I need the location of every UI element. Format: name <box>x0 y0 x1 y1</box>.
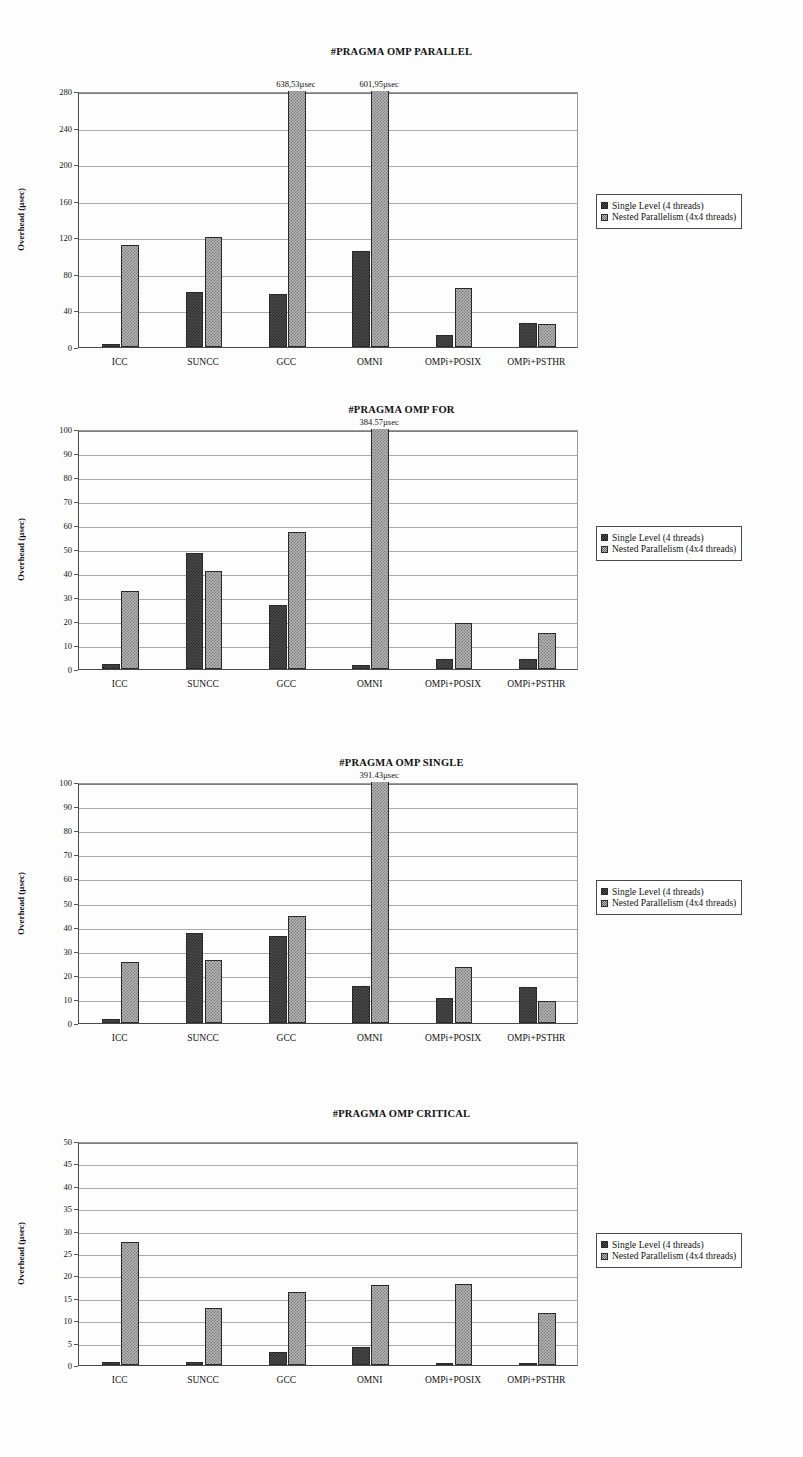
x-axis-tick-label-gcc: GCC <box>277 1375 297 1385</box>
bar-ompi-posix-nested <box>455 623 473 669</box>
x-axis-tick-label-ompi-posix: OMPi+POSIX <box>425 357 481 367</box>
gridline <box>79 479 577 480</box>
gridline <box>79 239 577 240</box>
gridline <box>79 312 577 313</box>
y-axis-tick-mark <box>74 831 78 832</box>
y-axis-tick-label: 30 <box>64 1227 73 1237</box>
y-axis-tick-mark <box>74 928 78 929</box>
x-axis-tick-label-ompi-posix: OMPi+POSIX <box>425 1033 481 1043</box>
chart-title: #PRAGMA OMP PARALLEL <box>0 46 803 57</box>
y-axis-tick-label: 50 <box>64 899 73 909</box>
plot-area <box>78 1142 578 1366</box>
bar-suncc-nested <box>205 960 223 1023</box>
chart-legend: Single Level (4 threads)Nested Paralleli… <box>596 526 742 561</box>
y-axis-tick-label: 240 <box>59 124 72 134</box>
y-axis-tick-mark <box>74 879 78 880</box>
bar-gcc-single <box>269 605 287 669</box>
dark-checker-swatch <box>601 202 608 209</box>
bar-ompi-posix-nested <box>455 288 473 347</box>
y-axis-tick-label: 35 <box>64 1204 73 1214</box>
gridline <box>79 905 577 906</box>
legend-item-single[interactable]: Single Level (4 threads) <box>601 533 736 543</box>
y-axis-tick-label: 0 <box>68 665 72 675</box>
y-axis-tick-label: 0 <box>68 1019 72 1029</box>
chart-legend: Single Level (4 threads)Nested Paralleli… <box>596 1233 742 1268</box>
light-checker-swatch <box>601 900 608 907</box>
bar-value-annotation: 384.57µsec <box>360 417 399 427</box>
light-checker-swatch <box>601 214 608 221</box>
gridline <box>79 1001 577 1002</box>
gridline <box>79 832 577 833</box>
y-axis-tick-mark <box>74 855 78 856</box>
bar-icc-nested <box>121 1242 139 1365</box>
x-axis-tick-label-ompi-psthr: OMPi+PSTHR <box>507 1033 565 1043</box>
gridline <box>79 527 577 528</box>
y-axis-tick-label: 10 <box>64 995 73 1005</box>
bar-omni-nested <box>371 429 389 669</box>
y-axis-tick-label: 160 <box>59 197 72 207</box>
y-axis-tick-label: 200 <box>59 160 72 170</box>
y-axis-tick-mark <box>74 129 78 130</box>
y-axis-tick-label: 70 <box>64 497 73 507</box>
y-axis-tick-mark <box>74 454 78 455</box>
bar-value-annotation: 601,95µsec <box>360 79 399 89</box>
x-axis-tick-label-suncc: SUNCC <box>187 679 219 689</box>
legend-item-label: Single Level (4 threads) <box>612 887 704 897</box>
bar-value-annotation: 638,53µsec <box>276 79 315 89</box>
y-axis-tick-mark <box>74 430 78 431</box>
y-axis-tick-mark <box>74 1299 78 1300</box>
chart-title: #PRAGMA OMP SINGLE <box>0 757 803 768</box>
y-axis-tick-mark <box>74 1209 78 1210</box>
bar-omni-nested <box>371 1285 389 1365</box>
bar-ompi-psthr-nested <box>538 324 556 347</box>
legend-item-label: Single Level (4 threads) <box>612 533 704 543</box>
bar-icc-nested <box>121 591 139 669</box>
x-axis-tick-label-suncc: SUNCC <box>187 1033 219 1043</box>
gridline <box>79 1143 577 1144</box>
chart-title: #PRAGMA OMP FOR <box>0 404 803 415</box>
plot-area <box>78 92 578 348</box>
legend-item-nested[interactable]: Nested Parallelism (4x4 threads) <box>601 544 736 554</box>
chart-legend: Single Level (4 threads)Nested Paralleli… <box>596 194 742 229</box>
legend-item-single[interactable]: Single Level (4 threads) <box>601 887 736 897</box>
y-axis-tick-mark <box>74 92 78 93</box>
y-axis-tick-label: 50 <box>64 545 73 555</box>
y-axis-tick-label: 70 <box>64 850 73 860</box>
bar-suncc-nested <box>205 1308 223 1365</box>
y-axis-tick-mark <box>74 311 78 312</box>
bar-ompi-psthr-nested <box>538 633 556 669</box>
y-axis-tick-label: 20 <box>64 1271 73 1281</box>
gridline <box>79 929 577 930</box>
bar-omni-nested <box>371 782 389 1023</box>
legend-item-single[interactable]: Single Level (4 threads) <box>601 1240 736 1250</box>
y-axis-tick-label: 60 <box>64 874 73 884</box>
legend-item-nested[interactable]: Nested Parallelism (4x4 threads) <box>601 212 736 222</box>
bar-value-annotation: 391.43µsec <box>360 770 399 780</box>
chart-single: #PRAGMA OMP SINGLEOverhead (µsec)0102030… <box>0 0 803 1457</box>
x-axis-tick-label-icc: ICC <box>112 679 128 689</box>
y-axis-tick-mark <box>74 1187 78 1188</box>
y-axis-tick-mark <box>74 348 78 349</box>
legend-item-label: Single Level (4 threads) <box>612 201 704 211</box>
legend-item-nested[interactable]: Nested Parallelism (4x4 threads) <box>601 1251 736 1261</box>
bar-suncc-single <box>186 292 204 347</box>
chart-parallel: #PRAGMA OMP PARALLELOverhead (µsec)04080… <box>0 0 803 1457</box>
y-axis-tick-label: 30 <box>64 593 73 603</box>
bar-ompi-psthr-single <box>519 323 537 347</box>
x-axis-tick-label-omni: OMNI <box>357 1375 382 1385</box>
y-axis-tick-mark <box>74 502 78 503</box>
bar-omni-nested <box>371 91 389 347</box>
y-axis-tick-mark <box>74 574 78 575</box>
legend-item-single[interactable]: Single Level (4 threads) <box>601 201 736 211</box>
gridline <box>79 1210 577 1211</box>
y-axis-tick-label: 25 <box>64 1249 73 1259</box>
y-axis-tick-mark <box>74 1254 78 1255</box>
legend-item-nested[interactable]: Nested Parallelism (4x4 threads) <box>601 898 736 908</box>
legend-item-label: Nested Parallelism (4x4 threads) <box>612 898 736 908</box>
y-axis-tick-mark <box>74 1276 78 1277</box>
y-axis-tick-label: 100 <box>59 425 72 435</box>
y-axis-tick-mark <box>74 598 78 599</box>
bar-gcc-nested <box>288 1292 306 1365</box>
gridline <box>79 130 577 131</box>
x-axis-tick-label-omni: OMNI <box>357 357 382 367</box>
